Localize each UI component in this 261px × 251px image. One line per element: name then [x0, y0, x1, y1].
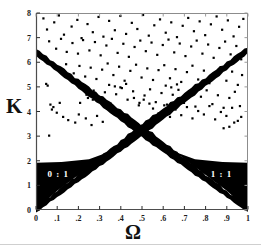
data-point [160, 92, 162, 94]
x-axis-label: Ω [125, 222, 141, 242]
data-point [220, 66, 222, 68]
data-point [173, 51, 175, 53]
data-point [65, 63, 67, 65]
figure-bottom-rule [0, 244, 261, 245]
data-point [122, 43, 124, 45]
data-point [187, 17, 189, 19]
y-tick-label: 0 [27, 206, 31, 215]
data-point [221, 29, 223, 31]
y-tick-label: 1 [27, 181, 31, 190]
data-point [223, 107, 225, 109]
data-point [73, 72, 75, 74]
data-point [148, 35, 150, 37]
data-point [112, 74, 114, 76]
data-point [129, 70, 131, 72]
data-point [126, 99, 128, 101]
data-point [208, 82, 210, 84]
data-point [163, 104, 165, 106]
data-point [163, 64, 165, 66]
data-point [184, 55, 186, 57]
data-point [93, 89, 95, 91]
data-point [194, 105, 196, 107]
y-tick-label: 3 [27, 132, 31, 141]
data-point [125, 33, 127, 35]
data-point [117, 52, 119, 54]
data-point [152, 79, 154, 81]
data-point [225, 115, 227, 117]
data-point [96, 115, 98, 117]
data-point [210, 23, 212, 25]
data-point [135, 64, 137, 66]
data-point [206, 89, 208, 91]
data-point [53, 21, 55, 23]
data-point [174, 108, 176, 110]
data-point [228, 126, 230, 128]
data-point [240, 58, 242, 60]
data-point [114, 85, 116, 87]
data-point [242, 18, 244, 20]
data-point [189, 93, 191, 95]
data-point [214, 72, 216, 74]
data-point [208, 105, 210, 107]
data-point [157, 69, 159, 71]
data-point [67, 119, 69, 121]
data-point [203, 113, 205, 115]
data-point [86, 23, 88, 25]
data-point [101, 69, 103, 71]
data-point [237, 120, 239, 122]
data-point [74, 121, 76, 123]
data-point [132, 90, 134, 92]
data-point [79, 102, 81, 104]
x-tick-label: .1 [54, 214, 60, 223]
data-point [108, 84, 110, 86]
data-point [237, 84, 239, 86]
data-point [66, 51, 68, 53]
data-point [179, 42, 181, 44]
data-point [225, 80, 227, 82]
data-point [180, 114, 182, 116]
data-point [150, 41, 152, 43]
data-point [145, 50, 147, 52]
data-point [227, 19, 229, 21]
data-point [232, 35, 234, 37]
data-point [97, 95, 99, 97]
data-point [180, 81, 182, 83]
data-point [100, 54, 102, 56]
data-point [169, 116, 171, 118]
data-point [193, 30, 195, 32]
data-point [172, 94, 174, 96]
right-region-label: 1 : 1 [211, 169, 233, 179]
data-point [139, 39, 141, 41]
data-point [159, 18, 161, 20]
data-point [176, 36, 178, 38]
data-point [143, 94, 145, 96]
data-point [138, 102, 140, 104]
data-point [190, 45, 192, 47]
x-tick-label: .7 [181, 214, 187, 223]
data-point [143, 99, 145, 101]
data-point [239, 105, 241, 107]
y-tick-label: 5 [27, 83, 31, 92]
data-point [136, 28, 138, 30]
data-point [162, 44, 164, 46]
data-point [84, 75, 86, 77]
data-point [196, 39, 198, 41]
data-point [218, 47, 220, 49]
data-point [191, 117, 193, 119]
data-point [140, 76, 142, 78]
data-point [105, 44, 107, 46]
data-point [197, 78, 199, 80]
data-point [119, 86, 121, 88]
data-point [133, 97, 135, 99]
data-point [213, 57, 215, 59]
data-point [174, 68, 176, 70]
data-point [149, 88, 151, 90]
data-point [46, 28, 48, 30]
data-point [49, 104, 51, 106]
data-point [58, 14, 60, 16]
data-point [63, 34, 65, 36]
data-point [131, 22, 133, 24]
data-point [170, 21, 172, 23]
data-point [85, 94, 87, 96]
x-tick-label: .2 [75, 214, 81, 223]
